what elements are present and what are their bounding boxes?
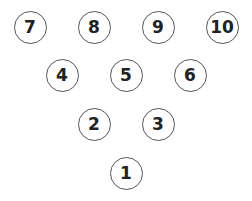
pin-6: 6 xyxy=(174,59,207,92)
pin-2: 2 xyxy=(78,108,111,141)
pin-5: 5 xyxy=(110,59,143,92)
pin-10: 10 xyxy=(206,11,239,44)
pin-4: 4 xyxy=(46,59,79,92)
pin-8: 8 xyxy=(78,11,111,44)
pin-7: 7 xyxy=(14,11,47,44)
pin-1: 1 xyxy=(110,157,143,190)
pin-9: 9 xyxy=(142,11,175,44)
pin-3: 3 xyxy=(142,108,175,141)
